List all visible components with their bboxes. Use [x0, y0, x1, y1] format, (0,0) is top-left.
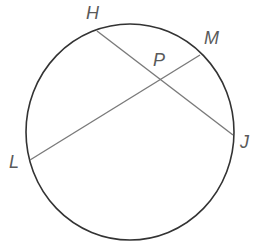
label-p: P: [153, 50, 165, 70]
label-j: J: [239, 132, 250, 152]
label-l: L: [9, 152, 19, 172]
label-m: M: [204, 28, 219, 48]
label-h: H: [86, 3, 100, 23]
geometry-diagram: H M P J L: [0, 0, 264, 252]
chord-lm: [30, 55, 200, 160]
